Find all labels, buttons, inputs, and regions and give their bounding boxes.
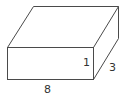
rectangular-prism-diagram: 8 1 3 [0, 0, 126, 98]
top-face-edges [8, 7, 119, 48]
front-face [8, 48, 94, 80]
prism-edges [8, 7, 119, 80]
height-label: 1 [83, 56, 90, 69]
depth-label: 3 [109, 61, 116, 74]
length-label: 8 [44, 83, 51, 96]
